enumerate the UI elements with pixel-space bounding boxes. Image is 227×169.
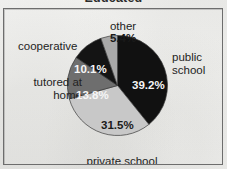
slice-value-tutored-at-home: 13.8% bbox=[76, 89, 109, 101]
slice-label-private-school: private school bbox=[72, 155, 172, 165]
slice-label-cooperative: cooperative bbox=[18, 40, 104, 53]
slice-label-other: other bbox=[92, 20, 154, 33]
slice-value-other: 5.4% bbox=[100, 32, 146, 44]
chart-title: Educated bbox=[0, 0, 227, 5]
chart-frame: public school other cooperative tutored … bbox=[3, 8, 223, 165]
slice-label-public-school: public school bbox=[172, 51, 223, 76]
slice-value-public-school: 39.2% bbox=[132, 79, 165, 91]
pie-chart-screenshot: Educated public school other cooperative… bbox=[0, 0, 227, 169]
slice-value-cooperative: 10.1% bbox=[74, 63, 107, 75]
chart-title-cropped-band: Educated bbox=[0, 0, 227, 7]
slice-label-tutored-at-home: tutored at home bbox=[6, 76, 82, 101]
slice-value-private-school: 31.5% bbox=[101, 119, 134, 131]
